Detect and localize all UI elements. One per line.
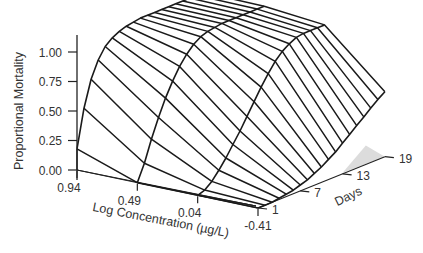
y-tick-mark: [385, 157, 394, 158]
y-tick-mark: [300, 191, 309, 192]
z-axis-ticks: 1.000.750.500.250.00: [39, 46, 77, 178]
y-tick-mark: [258, 208, 267, 209]
y-tick-label: 1: [272, 203, 279, 217]
z-tick-label: 0.50: [39, 105, 63, 119]
x-axis-title: Log Concentration (µg/L): [91, 200, 230, 240]
z-tick-label: 0.00: [39, 164, 63, 178]
y-tick-label: 13: [357, 169, 371, 183]
y-tick-label: 19: [399, 152, 413, 166]
z-tick-label: 1.00: [39, 46, 63, 60]
y-axis-title: Days: [332, 184, 364, 209]
z-tick-label: 0.25: [39, 134, 63, 148]
x-tick-label: 0.94: [57, 181, 81, 195]
y-tick-mark: [343, 174, 352, 175]
x-tick-label: -0.41: [244, 219, 272, 233]
z-axis-title: Proportional Mortality: [12, 51, 26, 170]
day-line: [204, 0, 385, 92]
surface-chart: 1.000.750.500.250.00 0.940.490.04-0.41 1…: [0, 0, 423, 253]
y-tick-label: 7: [314, 186, 321, 200]
z-tick-label: 0.75: [39, 75, 63, 89]
